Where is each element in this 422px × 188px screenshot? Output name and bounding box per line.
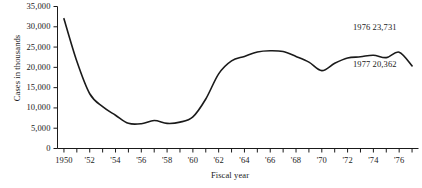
annotation-1977: 1977 20,362 [353,59,397,69]
y-tick-label: 25,000 [0,43,51,52]
annotation-1976: 1976 23,731 [353,22,397,32]
x-axis-title: Fiscal year [190,170,270,180]
y-tick-label: 0 [0,144,51,153]
y-tick-label: 30,000 [0,22,51,31]
y-tick-label: 15,000 [0,83,51,92]
y-tick-label: 10,000 [0,103,51,112]
y-tick-label: 5,000 [0,124,51,133]
x-tick-label: '76 [379,156,419,165]
y-tick-label: 20,000 [0,63,51,72]
x-tick-marks [64,149,412,153]
y-tick-label: 35,000 [0,2,51,11]
y-axis-title: Cases in thousands [12,13,22,123]
y-tick-marks [54,7,58,149]
data-series-line [64,19,412,125]
line-chart-figure: 05,00010,00015,00020,00025,00030,00035,0… [0,0,422,188]
